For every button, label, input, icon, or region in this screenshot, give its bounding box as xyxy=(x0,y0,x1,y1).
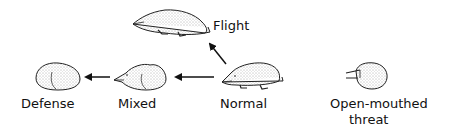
threat-shrew-icon xyxy=(346,63,387,89)
defense-shrew-icon xyxy=(36,63,80,90)
label-defense: Defense xyxy=(21,96,75,111)
arrow-normal-to-flight xyxy=(210,44,226,64)
normal-shrew-icon xyxy=(222,63,283,89)
label-mixed: Mixed xyxy=(118,96,156,111)
label-flight: Flight xyxy=(213,18,249,33)
label-threat-line1: Open-mouthed xyxy=(330,96,428,111)
label-normal: Normal xyxy=(220,96,267,111)
flight-shrew-icon xyxy=(133,10,210,36)
label-threat-line2: threat xyxy=(349,112,388,127)
mixed-shrew-icon xyxy=(114,64,166,90)
